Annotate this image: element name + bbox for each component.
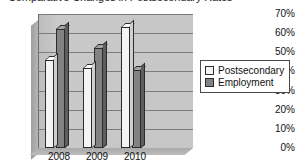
chart-title: Comparative Changes in Postsecondary Rat… <box>8 0 232 3</box>
bar-side-face <box>54 53 58 148</box>
legend-label: Postsecondary <box>218 65 284 76</box>
bar-side-face <box>130 20 134 148</box>
bar-postsecondary-2008 <box>45 60 54 148</box>
y-axis-tick-label: 20% <box>261 105 295 115</box>
legend-swatch-icon <box>205 78 214 87</box>
y-axis-tick-label: 60% <box>261 28 295 38</box>
x-axis-tick-label: 2010 <box>115 151 155 162</box>
legend-item-employment[interactable]: Employment <box>205 77 284 88</box>
bar-side-face <box>65 22 69 148</box>
bar-front-face <box>83 68 92 148</box>
legend-swatch-icon <box>205 66 214 75</box>
y-axis-tick-label: 50% <box>261 47 295 57</box>
gridline <box>39 14 193 15</box>
bar-front-face <box>121 27 130 148</box>
bar-side-face <box>103 41 107 148</box>
x-axis-tick-label: 2008 <box>39 151 79 162</box>
bar-side-face <box>141 62 145 148</box>
bar-side-face <box>92 60 96 148</box>
bar-front-face <box>45 60 54 148</box>
chart-container: Comparative Changes in Postsecondary Rat… <box>0 0 295 163</box>
y-axis-tick-label: 70% <box>261 9 295 19</box>
y-axis-tick-label: 0% <box>261 143 295 153</box>
legend-label: Employment <box>218 77 274 88</box>
bar-postsecondary-2010 <box>121 27 130 148</box>
y-axis-tick-label: 10% <box>261 124 295 134</box>
chart-legend: PostsecondaryEmployment <box>200 60 290 93</box>
plot-area <box>38 14 193 148</box>
plot-left-wall <box>31 20 38 160</box>
legend-item-postsecondary[interactable]: Postsecondary <box>205 65 284 76</box>
x-axis-tick-label: 2009 <box>77 151 117 162</box>
bar-postsecondary-2009 <box>83 68 92 148</box>
